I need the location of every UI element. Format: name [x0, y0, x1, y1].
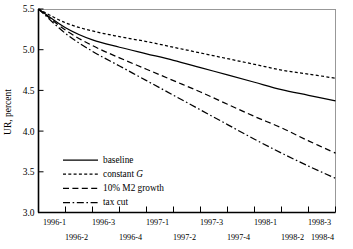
- line-chart-canvas: 3.03.54.04.55.05.5 UR, percent 1996-1199…: [0, 0, 353, 249]
- y-tick-label: 3.0: [23, 208, 35, 218]
- x-tick-label-group: 1996-11996-21996-31996-41997-11997-21997…: [43, 218, 334, 242]
- x-tick-label: 1996-4: [119, 233, 142, 242]
- series-line-constant-g: [39, 9, 336, 78]
- legend-label: tax cut: [103, 197, 128, 207]
- y-axis-title: UR, percent: [3, 89, 13, 135]
- x-tick-label: 1998-3: [308, 218, 331, 227]
- x-tick-label: 1997-2: [173, 233, 196, 242]
- y-tick-label: 4.5: [23, 86, 35, 96]
- series-line-10-m2-growth: [39, 9, 336, 153]
- y-tick-label: 5.0: [23, 45, 35, 55]
- legend-label: baseline: [103, 155, 133, 165]
- y-tick-label: 4.0: [23, 127, 35, 137]
- legend-label: 10% M2 growth: [103, 183, 164, 193]
- x-tick-label: 1997-3: [200, 218, 223, 227]
- x-tick-label: 1996-2: [65, 233, 88, 242]
- plot-frame: [38, 9, 336, 212]
- x-tick-group: [66, 207, 336, 213]
- chart-figure: 3.03.54.04.55.05.5 UR, percent 1996-1199…: [0, 0, 353, 249]
- series-group: [39, 9, 336, 178]
- x-tick-label: 1997-4: [227, 233, 250, 242]
- x-tick-label: 1996-3: [92, 218, 115, 227]
- x-tick-label: 1998-2: [281, 233, 304, 242]
- y-axis: 3.03.54.04.55.05.5 UR, percent: [3, 4, 44, 218]
- chart-legend: baselineconstant G10% M2 growthtax cut: [63, 155, 164, 208]
- x-tick-label: 1997-1: [146, 218, 169, 227]
- x-tick-label: 1998-4: [311, 233, 334, 242]
- x-tick-label: 1996-1: [43, 218, 66, 227]
- x-axis: 1996-11996-21996-31996-41997-11997-21997…: [38, 207, 336, 243]
- series-line-tax-cut: [39, 9, 336, 178]
- y-tick-label: 3.5: [23, 167, 35, 177]
- y-tick-label-group: 3.03.54.04.55.05.5: [23, 4, 35, 218]
- x-tick-label: 1998-1: [254, 218, 277, 227]
- y-tick-label: 5.5: [23, 4, 35, 14]
- series-line-baseline: [39, 9, 336, 101]
- legend-label: constant G: [103, 169, 143, 179]
- scan-edge-artifact: [0, 0, 353, 5]
